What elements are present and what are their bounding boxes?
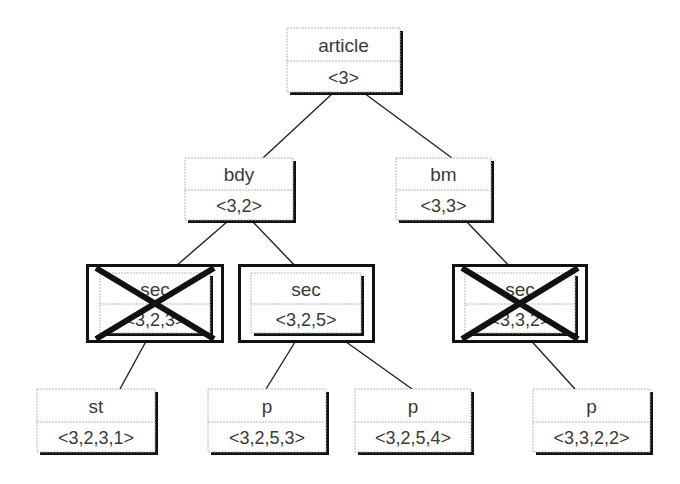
node-bdy[interactable]: bdy<3,2>: [185, 158, 296, 223]
node-label: bdy: [224, 164, 255, 185]
node-dewey-id: <3,2,5,3>: [229, 428, 305, 448]
node-label: bm: [430, 164, 456, 185]
node-label: article: [318, 35, 369, 56]
node-p3[interactable]: p<3,3,2,2>: [533, 389, 653, 455]
node-dewey-id: <3,2>: [216, 196, 262, 216]
node-label: p: [408, 396, 419, 417]
node-p1[interactable]: p<3,2,5,3>: [208, 389, 329, 455]
node-p2[interactable]: p<3,2,5,4>: [355, 389, 474, 455]
node-label: p: [586, 396, 597, 417]
node-st[interactable]: st<3,2,3,1>: [37, 389, 158, 455]
node-sec2[interactable]: sec<3,2,5>: [251, 273, 364, 336]
node-dewey-id: <3,3>: [420, 196, 466, 216]
tree-diagram: article<3>bdy<3,2>bm<3,3>sec<3,2,3>sec<3…: [0, 0, 680, 484]
node-article[interactable]: article<3>: [287, 28, 403, 95]
node-dewey-id: <3,3,2,2>: [553, 428, 629, 448]
node-label: p: [262, 396, 273, 417]
node-bm[interactable]: bm<3,3>: [396, 158, 494, 223]
node-dewey-id: <3,2,5,4>: [375, 428, 451, 448]
node-dewey-id: <3,2,3,1>: [58, 428, 134, 448]
node-label: st: [89, 396, 105, 417]
node-label: sec: [291, 279, 321, 300]
node-dewey-id: <3>: [328, 68, 359, 88]
node-dewey-id: <3,2,5>: [275, 310, 336, 330]
